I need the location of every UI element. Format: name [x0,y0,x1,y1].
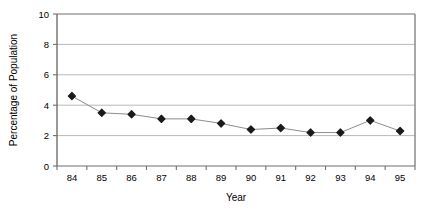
x-axis-tick-label: 90 [246,172,257,183]
y-axis-tick-label: 6 [44,69,49,80]
x-axis-tick-label: 94 [365,172,376,183]
x-axis-tick-label: 89 [216,172,227,183]
y-axis-tick-label: 8 [44,39,49,50]
x-axis-tick-label: 95 [395,172,406,183]
x-axis-tick-label: 84 [67,172,78,183]
y-axis-title: Percentage of Population [8,34,19,146]
line-chart: 0246810 848586878889909192939495 Year Pe… [0,0,431,214]
x-axis-tick-label: 91 [275,172,286,183]
x-axis-tick-label: 87 [156,172,167,183]
y-axis-tick-label: 10 [38,9,49,20]
y-axis-tick-label: 0 [44,161,49,172]
x-axis-tick-label: 86 [126,172,137,183]
chart-container: 0246810 848586878889909192939495 Year Pe… [0,0,431,214]
y-axis-tick-label: 4 [44,100,49,111]
x-axis-tick-label: 93 [335,172,346,183]
plot-area-background [57,14,415,166]
y-axis-tick-label: 2 [44,130,49,141]
x-axis-tick-label: 85 [96,172,107,183]
x-axis-tick-label: 92 [305,172,316,183]
x-axis-title: Year [226,192,247,203]
x-axis-tick-label: 88 [186,172,197,183]
